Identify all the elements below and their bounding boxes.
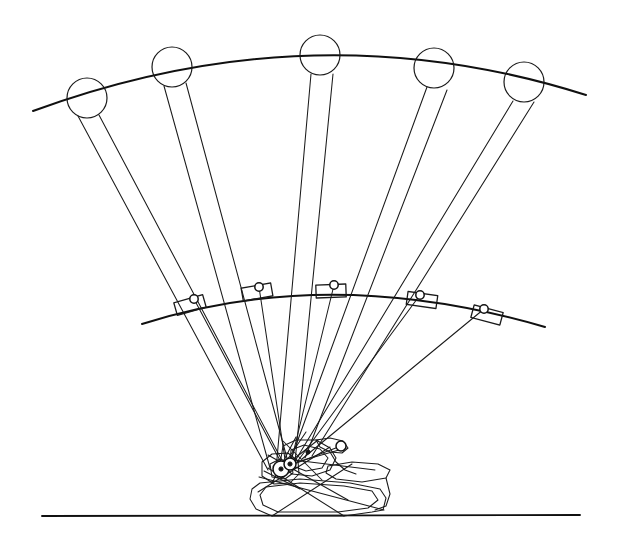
pin-dot-a: [279, 467, 283, 471]
slider-pin-4: [416, 291, 424, 299]
coupler-left-3: [276, 74, 311, 470]
figure-canvas: [0, 0, 620, 547]
slider-blocks-group: [174, 281, 503, 325]
coupler-right-2: [186, 83, 288, 462]
slider-pin-3: [330, 281, 338, 289]
slider-pin-1: [190, 295, 198, 303]
upper-path-arc: [33, 55, 586, 111]
circle-4: [414, 48, 454, 88]
linkage-position-5: [292, 101, 534, 466]
coupler-lines-group: [78, 74, 534, 470]
circle-2: [152, 47, 192, 87]
coupler-right-3: [295, 74, 333, 462]
slider-pin-2: [255, 283, 263, 291]
base-plate-inner: [260, 483, 378, 512]
pin-dot-b: [288, 462, 292, 466]
linkage-position-4: [288, 87, 447, 467]
linkage-position-2: [164, 83, 288, 468]
pin-dot-c: [306, 450, 310, 454]
coupler-right-5: [312, 102, 534, 456]
slider-pin-5: [480, 305, 488, 313]
coupler-left-2: [164, 86, 270, 468]
kinematic-diagram: [0, 0, 620, 547]
upper-arc-group: [33, 55, 586, 111]
right-bracket-tail: [375, 478, 390, 510]
crank-link-2: [259, 287, 286, 466]
crank-link-1: [194, 299, 284, 468]
linkage-position-1: [78, 115, 285, 470]
free-pin-joint: [336, 441, 346, 451]
end-circles-group: [67, 35, 544, 118]
coupler-left-1: [78, 116, 268, 470]
